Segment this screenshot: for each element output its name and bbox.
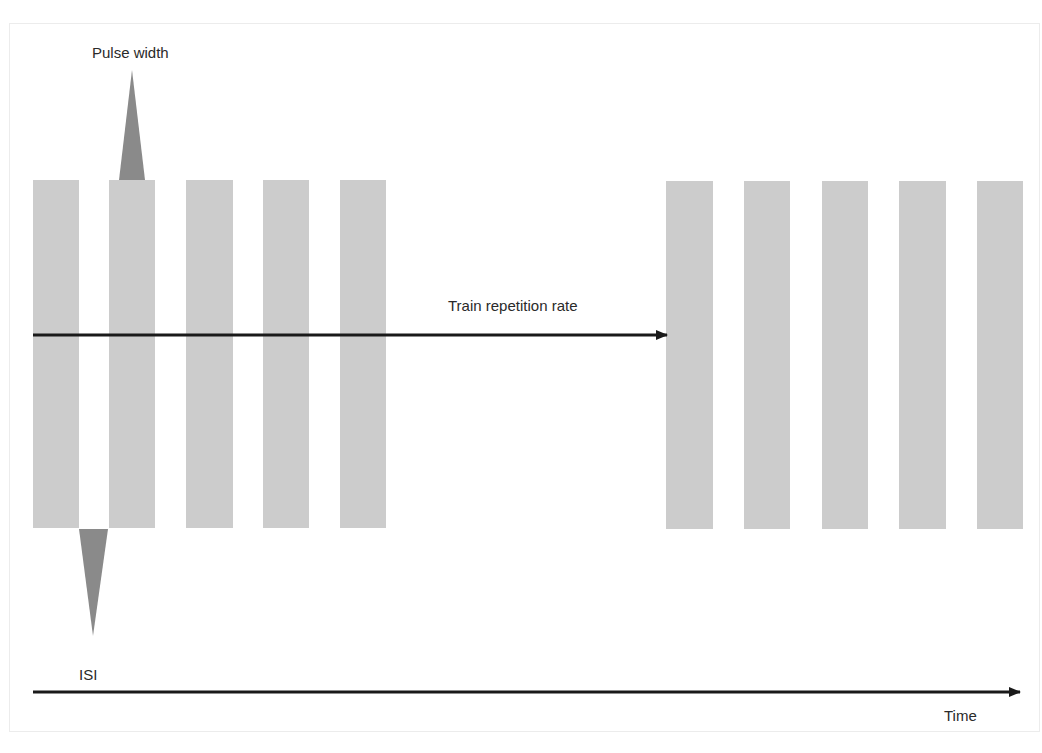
pulse-width-label: Pulse width [92, 44, 169, 61]
pulse-bar [33, 180, 79, 528]
pulse-train-1 [33, 180, 386, 528]
pulse-bar [263, 180, 309, 528]
time-label: Time [944, 707, 977, 724]
pulse-bar [666, 181, 713, 529]
isi-marker-icon [79, 529, 108, 636]
pulse-bar [822, 181, 868, 529]
pulse-bar [744, 181, 790, 529]
pulse-bar [186, 180, 233, 528]
pulse-bar [109, 180, 155, 528]
pulse-bar [340, 180, 386, 528]
pulse-bar [977, 181, 1023, 529]
pulse-width-marker-icon [119, 70, 145, 180]
stimulation-diagram [0, 0, 1042, 753]
train-repetition-rate-label: Train repetition rate [448, 297, 578, 314]
isi-label: ISI [79, 666, 97, 683]
pulse-bar [899, 181, 946, 529]
pulse-train-2 [666, 181, 1023, 529]
